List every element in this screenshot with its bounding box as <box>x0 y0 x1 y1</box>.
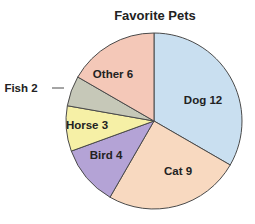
slice-label-cat: Cat 9 <box>164 165 192 177</box>
slice-label-horse: Horse 3 <box>66 119 108 131</box>
slice-label-bird: Bird 4 <box>90 149 123 161</box>
slice-label-fish: Fish 2 <box>4 82 37 94</box>
slice-label-other: Other 6 <box>93 68 133 80</box>
pie-chart: Dog 12Cat 9Bird 4Horse 3Fish 2Other 6 <box>0 0 255 224</box>
slice-label-dog: Dog 12 <box>184 94 222 106</box>
